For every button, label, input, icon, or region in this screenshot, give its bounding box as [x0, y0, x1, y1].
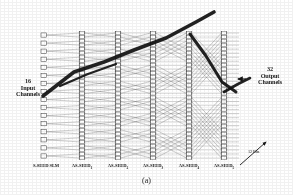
stage-label-subscript: 2	[127, 166, 129, 170]
stage-label-subscript: 4	[198, 166, 200, 170]
stage-label-base: AS-SEED	[214, 163, 233, 168]
stage-label-base: AS-SEED	[143, 163, 162, 168]
input-channels-label: 16 Input Channels	[8, 78, 48, 98]
stage-label-subscript: 5	[233, 166, 235, 170]
stage-label-subscript: 1	[91, 166, 93, 170]
interconnect-links	[46, 33, 239, 158]
optical-beam-overlays	[43, 12, 250, 96]
input-word-2: Channels	[16, 90, 40, 97]
stage-label-subscript: 3	[162, 166, 164, 170]
stage-label-6: AS-SEED5	[202, 164, 246, 170]
stage-label-base: S-SEED SLM	[33, 163, 59, 168]
bits-annotation-label: 12 Bits	[248, 150, 276, 154]
stage-label-base: AS-SEED	[108, 163, 127, 168]
figure-caption: (a)	[0, 176, 293, 185]
output-word-2: Channels	[258, 78, 282, 85]
figure-root: 16 Input Channels 32 Output Channels 12 …	[0, 0, 293, 195]
output-channels-label: 32 Output Channels	[249, 66, 291, 86]
stage-label-base: AS-SEED	[179, 163, 198, 168]
stage-device-arrays	[79, 31, 226, 160]
stage-label-base: AS-SEED	[72, 163, 91, 168]
